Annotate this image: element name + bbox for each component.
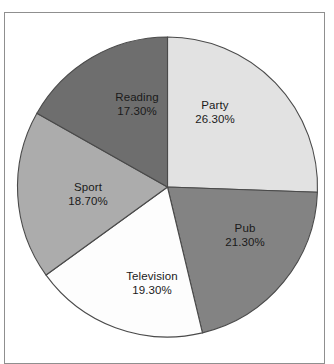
pie-label-name: Sport [68,181,108,195]
pie-label-party: Party26.30% [195,99,235,126]
pie-label-value: 19.30% [126,283,178,297]
pie-label-value: 21.30% [225,235,265,249]
pie-label-reading: Reading17.30% [115,91,159,118]
pie-label-value: 17.30% [115,104,159,118]
pie-label-value: 18.70% [68,194,108,208]
pie-label-name: Party [195,99,235,113]
pie-slice-party[interactable] [168,37,318,192]
pie-label-television: Television19.30% [126,270,178,297]
pie-label-name: Reading [115,91,159,105]
pie-label-name: Pub [225,222,265,236]
pie-label-name: Television [126,270,178,284]
pie-label-pub: Pub21.30% [225,222,265,249]
pie-label-sport: Sport18.70% [68,181,108,208]
pie-label-value: 26.30% [195,112,235,126]
